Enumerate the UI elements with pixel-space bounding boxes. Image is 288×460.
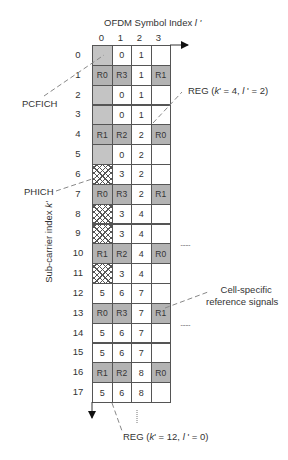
reg-bottom-leader-line [112,403,122,431]
cell-rs-leader-line [165,292,208,308]
horizontal-ellipsis-2: ...... [180,318,190,328]
cell-rs-label-line2: reference signals [206,297,278,307]
reg-top-label: REG (k' = 4, l ' = 2) [188,86,268,96]
phich-label: PHICH [24,187,54,197]
annotation-lines [0,0,288,460]
reg-top-leader-line [153,92,182,123]
cell-rs-label-line1: Cell-specific [214,285,278,295]
pcfich-leader-line [44,55,104,96]
phich-leader-line [56,178,95,191]
reg-bottom-label: REG (k' = 12, l ' = 0) [123,432,209,442]
horizontal-ellipsis-1: ...... [180,238,190,248]
cell-rs-label: Cell-specific reference signals [214,285,278,306]
pcfich-label: PCFICH [22,99,57,109]
ofdm-resource-grid-diagram: OFDM Symbol Index l ' 0 1 2 3 Sub-carrie… [0,0,288,460]
